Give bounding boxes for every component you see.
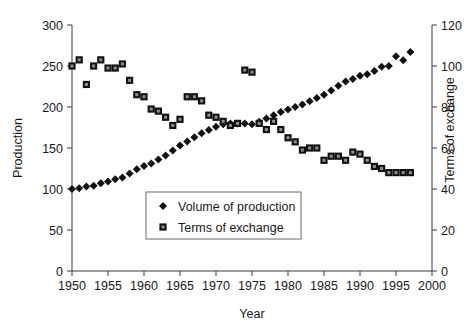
data-point-square: [220, 118, 227, 125]
data-point-diamond: [118, 174, 126, 182]
data-point-square: [184, 93, 191, 100]
x-axis-tick-label: 1960: [130, 279, 158, 293]
y-axis-left-tick-label: 0: [56, 265, 63, 279]
chart-legend: Volume of productionTerms of exchange: [146, 192, 301, 239]
data-point-square: [263, 126, 270, 133]
data-point-diamond: [363, 70, 371, 78]
data-point-diamond: [198, 129, 206, 137]
data-point-diamond: [82, 183, 90, 191]
square-inner: [70, 64, 73, 67]
square-inner: [394, 171, 397, 174]
square-inner: [279, 128, 282, 131]
square-inner: [193, 95, 196, 98]
data-point-diamond: [248, 120, 256, 128]
square-inner: [265, 128, 268, 131]
data-point-diamond: [111, 175, 119, 183]
square-inner: [207, 114, 210, 117]
data-point-square: [342, 157, 349, 164]
data-point-diamond: [306, 97, 314, 105]
x-axis-tick-label: 2000: [418, 279, 446, 293]
data-point-diamond: [104, 178, 112, 186]
square-inner: [85, 83, 88, 86]
data-point-square: [126, 77, 133, 84]
data-point-diamond: [284, 105, 292, 113]
square-inner: [351, 151, 354, 154]
data-point-square: [392, 169, 399, 176]
data-point-diamond: [140, 162, 148, 170]
data-point-square: [313, 144, 320, 151]
square-inner: [387, 171, 390, 174]
square-inner: [330, 155, 333, 158]
data-point-square: [76, 56, 83, 63]
square-inner: [250, 71, 253, 74]
data-point-square: [68, 62, 75, 69]
x-axis-tick-label: 1995: [382, 279, 410, 293]
data-point-square: [299, 146, 306, 153]
data-point-square: [407, 169, 414, 176]
data-point-diamond: [68, 185, 76, 193]
x-axis-tick-label: 1975: [238, 279, 266, 293]
chart-canvas: Volume of productionTerms of exchange 05…: [0, 0, 467, 328]
data-point-square: [385, 169, 392, 176]
y-axis-left-tick-label: 250: [42, 60, 63, 74]
data-point-diamond: [205, 126, 213, 134]
y-axis-left-title: Production: [11, 118, 25, 178]
data-points-layer: [68, 48, 414, 193]
square-inner: [243, 69, 246, 72]
data-point-square: [83, 81, 90, 88]
square-inner: [106, 67, 109, 70]
square-inner: [322, 159, 325, 162]
data-point-square: [364, 157, 371, 164]
y-axis-right-title: Terms of exchange: [443, 77, 457, 183]
data-point-diamond: [334, 82, 342, 90]
data-point-diamond: [378, 63, 386, 71]
x-axis-tick-label: 1970: [202, 279, 230, 293]
data-point-diamond: [320, 91, 328, 99]
data-point-square: [191, 93, 198, 100]
legend-marker-square: [159, 223, 166, 230]
x-axis-tick-label: 1950: [58, 279, 86, 293]
data-point-square: [371, 163, 378, 170]
y-axis-left-tick-label: 150: [42, 142, 63, 156]
data-point-diamond: [190, 133, 198, 141]
square-inner: [161, 225, 164, 228]
data-point-diamond: [298, 101, 306, 109]
x-axis-tick-label: 1980: [274, 279, 302, 293]
data-point-diamond: [291, 103, 299, 111]
y-axis-right-tick-label: 120: [441, 19, 462, 33]
square-inner: [121, 62, 124, 65]
square-inner: [402, 171, 405, 174]
data-point-diamond: [162, 151, 170, 159]
data-point-square: [133, 91, 140, 98]
x-axis-title: Year: [239, 307, 264, 321]
data-point-diamond: [90, 182, 98, 190]
data-point-square: [119, 60, 126, 67]
data-point-diamond: [133, 165, 141, 173]
square-inner: [178, 118, 181, 121]
square-inner: [78, 58, 81, 61]
data-point-diamond: [75, 184, 83, 192]
data-point-diamond: [313, 94, 321, 102]
square-inner: [222, 120, 225, 123]
data-point-square: [248, 69, 255, 76]
data-point-diamond: [356, 72, 364, 80]
square-inner: [171, 124, 174, 127]
data-point-diamond: [241, 119, 249, 127]
square-inner: [186, 95, 189, 98]
square-inner: [200, 99, 203, 102]
x-axis-tick-label: 1955: [94, 279, 122, 293]
data-point-square: [205, 112, 212, 119]
data-point-square: [378, 165, 385, 172]
legend-label-1: Terms of exchange: [178, 221, 284, 235]
square-inner: [409, 171, 412, 174]
data-point-square: [104, 64, 111, 71]
square-inner: [337, 155, 340, 158]
data-point-square: [112, 64, 119, 71]
square-inner: [92, 64, 95, 67]
data-point-square: [320, 157, 327, 164]
data-point-square: [155, 108, 162, 115]
square-inner: [229, 124, 232, 127]
y-axis-left-tick-label: 300: [42, 19, 63, 33]
y-axis-left-tick-label: 50: [49, 224, 63, 238]
data-point-square: [349, 149, 356, 156]
